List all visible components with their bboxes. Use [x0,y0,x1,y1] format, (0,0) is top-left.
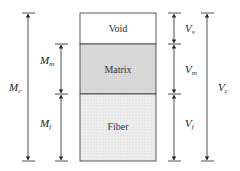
vm-label: Vm [185,63,197,77]
mass-dimensions [22,13,68,161]
vv-label: Vv [185,22,196,36]
vf-label: Vf [185,117,195,131]
mc-label: Mc [8,81,22,95]
composite-volume-mass-diagram: Void Matrix Fiber Mc Mm Mf Vv Vm Vf Vc [0,0,240,171]
matrix-label: Matrix [104,64,131,75]
mf-label: Mf [39,117,52,131]
vc-label: Vc [218,81,229,95]
fiber-label: Fiber [107,121,129,132]
void-label: Void [109,23,128,34]
mm-label: Mm [39,54,54,68]
composite-box: Void Matrix Fiber [80,13,156,161]
